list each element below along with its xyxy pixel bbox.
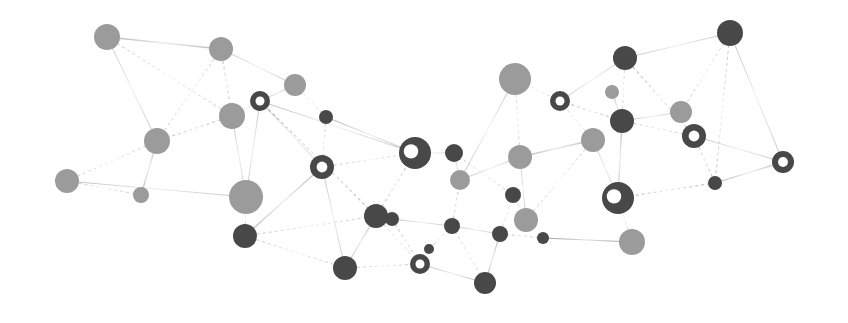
node-circle — [209, 37, 233, 61]
node-circle — [499, 63, 531, 95]
node-n10 — [250, 91, 270, 111]
edge — [681, 33, 730, 112]
node-n28 — [499, 63, 531, 95]
ring-hole — [778, 157, 788, 167]
node-circle — [717, 20, 743, 46]
node-n12 — [310, 155, 334, 179]
node-n3 — [284, 74, 306, 96]
edge — [157, 49, 221, 141]
node-layer — [55, 20, 794, 294]
node-circle — [333, 256, 357, 280]
node-n32 — [581, 128, 605, 152]
node-circle — [385, 212, 399, 226]
node-n35 — [682, 124, 706, 148]
node-circle — [444, 218, 460, 234]
node-n30 — [605, 85, 619, 99]
edge — [730, 33, 783, 162]
edge — [260, 101, 415, 153]
node-n25 — [514, 208, 538, 232]
node-circle — [219, 103, 245, 129]
node-circle — [670, 101, 692, 123]
node-circle — [133, 187, 149, 203]
node-circle — [610, 109, 634, 133]
edge — [625, 58, 694, 136]
node-n36 — [717, 20, 743, 46]
node-n33 — [610, 109, 634, 133]
node-circle — [514, 208, 538, 232]
node-n34 — [670, 101, 692, 123]
node-n16 — [333, 256, 357, 280]
node-n27 — [508, 145, 532, 169]
node-circle — [364, 204, 388, 228]
node-n23 — [505, 187, 521, 203]
edge — [67, 181, 246, 197]
ring-hole — [256, 97, 265, 106]
node-circle — [94, 24, 120, 50]
edge — [625, 33, 730, 58]
node-n40 — [619, 229, 645, 255]
ring-hole — [404, 144, 418, 158]
ring-hole — [689, 131, 700, 142]
ring-hole — [556, 97, 565, 106]
network-diagram — [0, 0, 848, 323]
node-n6 — [55, 169, 79, 193]
node-circle — [284, 74, 306, 96]
node-circle — [492, 226, 508, 242]
node-circle — [708, 176, 722, 190]
node-n8 — [229, 180, 263, 214]
node-n37 — [772, 151, 794, 173]
node-n22 — [474, 272, 496, 294]
node-n38 — [708, 176, 722, 190]
node-circle — [144, 128, 170, 154]
node-circle — [445, 144, 463, 162]
node-circle — [424, 244, 434, 254]
node-circle — [581, 128, 605, 152]
node-n24 — [492, 226, 508, 242]
node-circle — [508, 145, 532, 169]
node-n39 — [602, 182, 634, 214]
node-n21 — [444, 218, 460, 234]
node-n14 — [364, 204, 388, 228]
node-n18 — [424, 244, 434, 254]
node-n31 — [613, 46, 637, 70]
node-circle — [505, 187, 521, 203]
edge — [543, 238, 632, 242]
node-n19 — [445, 144, 463, 162]
node-n4 — [219, 103, 245, 129]
node-n5 — [144, 128, 170, 154]
node-n7 — [133, 187, 149, 203]
node-circle — [619, 229, 645, 255]
edge — [715, 33, 730, 183]
edge — [67, 141, 157, 181]
edge — [245, 236, 345, 268]
node-circle — [55, 169, 79, 193]
node-circle — [450, 170, 470, 190]
node-n9 — [233, 224, 257, 248]
ring-hole — [317, 162, 328, 173]
node-n1 — [94, 24, 120, 50]
node-circle — [605, 85, 619, 99]
node-n17 — [410, 254, 430, 274]
node-circle — [613, 46, 637, 70]
edge — [460, 79, 515, 180]
node-n20 — [450, 170, 470, 190]
node-n2 — [209, 37, 233, 61]
ring-hole — [416, 260, 425, 269]
edge — [107, 37, 157, 141]
node-n13 — [399, 137, 431, 169]
node-circle — [319, 110, 333, 124]
node-circle — [233, 224, 257, 248]
edge — [392, 219, 452, 226]
ring-hole — [607, 189, 621, 203]
edge — [694, 136, 783, 162]
edge — [107, 37, 221, 49]
edge — [221, 49, 295, 85]
node-circle — [474, 272, 496, 294]
node-n26 — [537, 232, 549, 244]
node-circle — [229, 180, 263, 214]
network-graph-canvas — [0, 0, 848, 323]
node-n15 — [385, 212, 399, 226]
node-n11 — [319, 110, 333, 124]
edge — [526, 140, 593, 220]
node-n29 — [550, 91, 570, 111]
